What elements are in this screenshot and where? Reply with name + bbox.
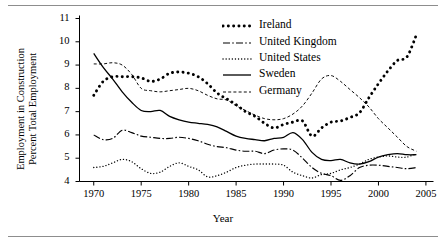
x-tick-label: 2005 (406, 188, 446, 199)
y-tick-label: 5 (50, 151, 70, 162)
y-tick-label: 4 (50, 175, 70, 186)
y-tick-label: 8 (50, 81, 70, 92)
x-tick-label: 1990 (264, 188, 304, 199)
legend-label: Ireland (259, 18, 292, 30)
legend-item: Germany (222, 82, 372, 98)
x-tick-label: 1975 (121, 188, 161, 199)
legend-label: Germany (259, 84, 302, 96)
series-line-united-kingdom (94, 130, 417, 180)
legend-swatch-icon (222, 84, 252, 96)
y-tick-label: 11 (50, 12, 70, 23)
figure-container: Employment in Construction Percent Total… (0, 0, 446, 243)
y-tick-label: 7 (50, 105, 70, 116)
series-line-united-states (94, 154, 417, 178)
legend-label: United States (259, 51, 321, 63)
legend-swatch-icon (222, 51, 252, 63)
y-tick-label: 10 (50, 35, 70, 46)
x-tick-label: 1980 (169, 188, 209, 199)
legend-item: United Kingdom (222, 32, 372, 48)
legend-swatch-icon (222, 35, 252, 47)
x-tick-label: 1970 (74, 188, 114, 199)
legend-swatch-icon (222, 67, 252, 79)
legend-item: United States (222, 49, 372, 65)
x-tick-label: 1995 (311, 188, 351, 199)
x-tick-label: 1985 (216, 188, 256, 199)
legend-item: Ireland (222, 16, 372, 32)
chart-legend: IrelandUnited KingdomUnited StatesSweden… (222, 16, 372, 98)
legend-swatch-icon (222, 18, 252, 30)
y-tick-label: 9 (50, 58, 70, 69)
x-tick-label: 2000 (358, 188, 398, 199)
legend-label: Sweden (259, 67, 295, 79)
legend-label: United Kingdom (259, 35, 337, 47)
y-tick-label: 6 (50, 128, 70, 139)
legend-item: Sweden (222, 65, 372, 81)
